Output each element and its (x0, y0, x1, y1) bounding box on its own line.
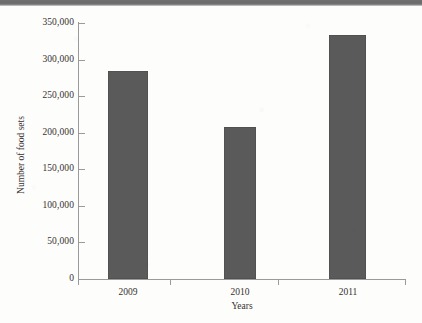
y-tick-150000 (79, 169, 85, 170)
y-tick-50000 (79, 242, 85, 243)
y-axis-title: Number of food sets (16, 95, 26, 215)
x-tick-label-2011: 2011 (318, 287, 378, 297)
x-axis-line (78, 279, 406, 280)
x-axis-title: Years (78, 301, 406, 311)
y-tick-100000 (79, 206, 85, 207)
bar-chart-plot: 350,000 300,000 250,000 200,000 150,000 … (0, 0, 422, 323)
bar-2010 (224, 127, 256, 279)
y-tick-200000 (79, 133, 85, 134)
y-tick-label-350000: 350,000 (12, 17, 74, 27)
y-tick-250000 (79, 96, 85, 97)
x-tick-right-edge (405, 280, 406, 285)
x-tick-left-edge (78, 280, 79, 285)
bar-2009 (108, 71, 148, 279)
y-tick-label-50000: 50,000 (12, 236, 74, 246)
x-tick-label-2010: 2010 (210, 287, 270, 297)
x-tick-label-2009: 2009 (98, 287, 158, 297)
y-tick-label-wrap-0: 0 (8, 273, 74, 285)
bar-2011 (329, 35, 366, 279)
chart-page: 350,000 300,000 250,000 200,000 150,000 … (0, 0, 422, 323)
y-tick-label-wrap-300000: 300,000 (8, 54, 74, 66)
y-tick-300000 (79, 60, 85, 61)
y-tick-350000 (79, 23, 85, 24)
y-tick-label-0: 0 (12, 273, 74, 283)
y-tick-label-wrap-350000: 350,000 (8, 17, 74, 29)
x-tick-2 (278, 280, 279, 285)
y-tick-label-wrap-50000: 50,000 (8, 236, 74, 248)
y-tick-label-300000: 300,000 (12, 54, 74, 64)
x-tick-1 (170, 280, 171, 285)
y-tick-0 (79, 279, 85, 280)
